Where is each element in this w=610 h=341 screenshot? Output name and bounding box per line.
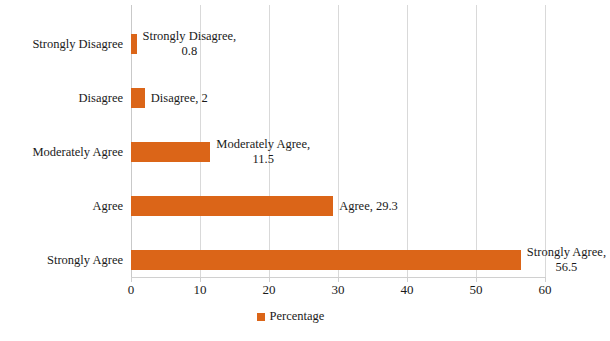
bar-2: [131, 88, 145, 108]
plot-area: Strongly DisagreeStrongly Disagree, 0.8D…: [131, 5, 545, 277]
data-label-3: Moderately Agree, 11.5: [210, 137, 310, 167]
category-label: Disagree: [79, 91, 123, 105]
x-tick-label-50: 50: [470, 282, 483, 298]
legend-label-percentage: Percentage: [270, 309, 325, 324]
data-label-4: Agree, 29.3: [333, 199, 398, 214]
data-label-1: Strongly Disagree, 0.8: [137, 29, 237, 59]
bar-row: Strongly DisagreeStrongly Disagree, 0.8: [131, 17, 610, 71]
data-label-5: Strongly Agree, 56.5: [521, 245, 606, 275]
data-label-2: Disagree, 2: [145, 91, 208, 106]
category-label: Strongly Disagree: [32, 37, 123, 51]
category-label: Strongly Agree: [47, 253, 123, 267]
bar-3: [131, 142, 210, 162]
category-label: Agree: [92, 199, 123, 213]
chart-legend: Percentage: [0, 309, 581, 324]
bar-row: DisagreeDisagree, 2: [131, 71, 610, 125]
legend-swatch-percentage: [257, 313, 265, 321]
x-tick-label-30: 30: [332, 282, 345, 298]
x-tick-label-20: 20: [263, 282, 276, 298]
bar-row: Strongly AgreeStrongly Agree, 56.5: [131, 233, 610, 287]
category-label: Moderately Agree: [32, 145, 123, 159]
x-tick-label-0: 0: [128, 282, 135, 298]
bar-5: [131, 250, 521, 270]
bar-row: Moderately AgreeModerately Agree, 11.5: [131, 125, 610, 179]
bar-4: [131, 196, 333, 216]
x-tick-label-60: 60: [539, 282, 552, 298]
x-tick-label-40: 40: [401, 282, 414, 298]
x-tick-label-10: 10: [194, 282, 207, 298]
bar-row: AgreeAgree, 29.3: [131, 179, 610, 233]
